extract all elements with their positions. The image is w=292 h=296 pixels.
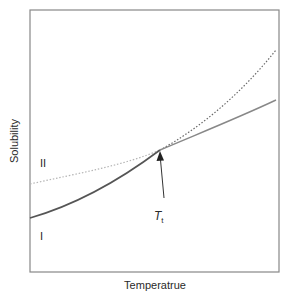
solubility-chart: II I Tt Temperatrue Solubility	[0, 0, 292, 296]
region-label-I: I	[40, 230, 43, 242]
x-axis-label: Temperatrue	[124, 279, 186, 291]
plot-frame	[30, 10, 279, 272]
transition-arrow	[161, 160, 165, 198]
y-axis-label: Solubility	[8, 118, 20, 163]
transition-label: Tt	[154, 209, 164, 225]
curve-II-left	[30, 150, 160, 184]
curve-I-right	[160, 100, 276, 150]
curve-I-left	[30, 150, 160, 218]
region-label-II: II	[40, 157, 46, 169]
curve-II-right	[160, 50, 276, 150]
